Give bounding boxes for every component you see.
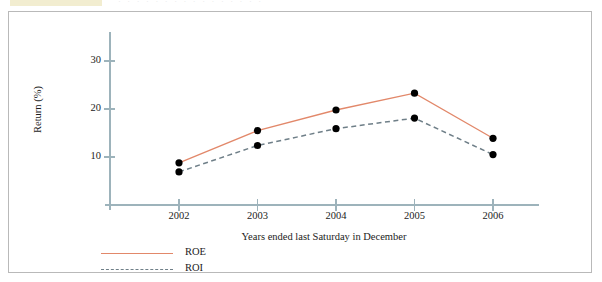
data-point-roe-2005 <box>411 90 418 97</box>
highlight-band <box>10 0 102 6</box>
data-point-roe-2004 <box>332 106 339 113</box>
data-point-roi-2004 <box>332 125 339 132</box>
legend-item-roi: ROI <box>101 262 271 278</box>
data-point-roi-2002 <box>175 168 182 175</box>
legend-line-swatch <box>101 253 173 254</box>
legend-label-text: ROI <box>185 262 203 273</box>
data-point-roi-2006 <box>489 151 496 158</box>
top-cut-off-strip: · · · · · · · · · · · · · · · · <box>0 0 602 10</box>
data-point-roi-2005 <box>411 115 418 122</box>
legend-item-roe: ROE <box>101 246 271 262</box>
data-point-roe-2003 <box>254 127 261 134</box>
chart-legend: ROEROI <box>101 246 271 278</box>
data-point-roe-2006 <box>489 135 496 142</box>
data-point-roi-2003 <box>254 142 261 149</box>
chart-plot-area: Return (%) Years ended last Saturday in … <box>9 12 593 274</box>
chart-figure-frame: Return (%) Years ended last Saturday in … <box>8 11 592 273</box>
legend-label-text: ROE <box>185 246 206 257</box>
legend-line-swatch <box>101 269 173 270</box>
cut-off-text-remnant: · · · · · · · · · · · · · · · · <box>118 0 588 6</box>
data-point-roe-2002 <box>175 159 182 166</box>
series-layer <box>9 12 593 274</box>
